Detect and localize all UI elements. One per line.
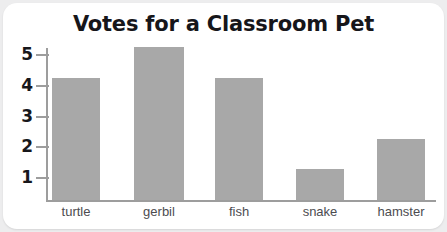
y-tick-mark-1	[36, 177, 49, 179]
y-tick-mark-5	[36, 54, 49, 56]
x-axis-label-hamster: hamster	[369, 204, 433, 219]
y-tick-label-4: 4	[11, 77, 33, 94]
y-tick-label-1: 1	[11, 169, 33, 186]
y-tick-label-3: 3	[11, 108, 33, 125]
bar-chart-plot: 1 2 3 4 5 turtle gerbil fish snake hamst…	[3, 3, 444, 229]
y-tick-mark-4	[36, 85, 49, 87]
y-tick-mark-3	[36, 116, 49, 118]
bar-snake[interactable]	[296, 169, 344, 200]
bar-hamster[interactable]	[377, 139, 425, 200]
x-axis-label-gerbil: gerbil	[129, 204, 189, 219]
y-tick-mark-2	[36, 146, 49, 148]
bar-turtle[interactable]	[52, 78, 100, 200]
y-tick-label-2: 2	[11, 138, 33, 155]
x-axis-label-turtle: turtle	[46, 204, 106, 219]
bar-gerbil[interactable]	[134, 47, 184, 200]
chart-card: Votes for a Classroom Pet 1 2 3 4 5 turt…	[3, 3, 444, 229]
x-axis-line	[46, 200, 436, 202]
y-tick-label-5: 5	[11, 46, 33, 63]
x-axis-label-snake: snake	[290, 204, 350, 219]
x-axis-label-fish: fish	[209, 204, 269, 219]
bar-fish[interactable]	[215, 78, 263, 200]
